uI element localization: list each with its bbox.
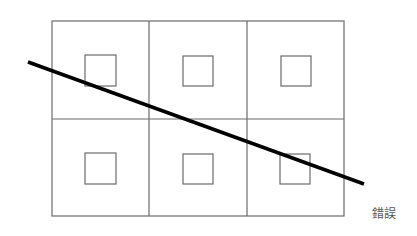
caption-label: 錯誤 — [372, 204, 396, 221]
grid-diagram — [0, 0, 417, 236]
inner-square — [281, 56, 311, 86]
inner-square — [85, 55, 116, 86]
diagonal-line — [28, 62, 364, 184]
inner-square — [183, 154, 213, 184]
inner-square — [183, 56, 213, 86]
inner-square — [85, 153, 116, 184]
